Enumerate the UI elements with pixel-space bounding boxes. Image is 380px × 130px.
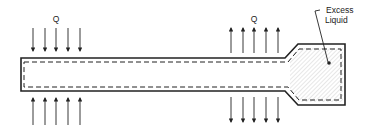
heat-output-arrows-top	[231, 28, 278, 53]
excess-liquid-label-line2: Liquid	[325, 15, 348, 25]
heat-output-arrows-bottom	[231, 97, 278, 122]
heat-in-label: Q	[53, 14, 60, 24]
reservoir-fill	[290, 48, 343, 102]
heat-pipe-diagram: Q Q Excess Liquid	[0, 0, 380, 130]
heat-out-label: Q	[251, 14, 258, 24]
leader-dot	[327, 61, 331, 65]
excess-liquid-label-line1: Excess	[326, 5, 353, 15]
heat-input-arrows-bottom	[33, 98, 80, 125]
heat-input-arrows-top	[33, 28, 80, 51]
